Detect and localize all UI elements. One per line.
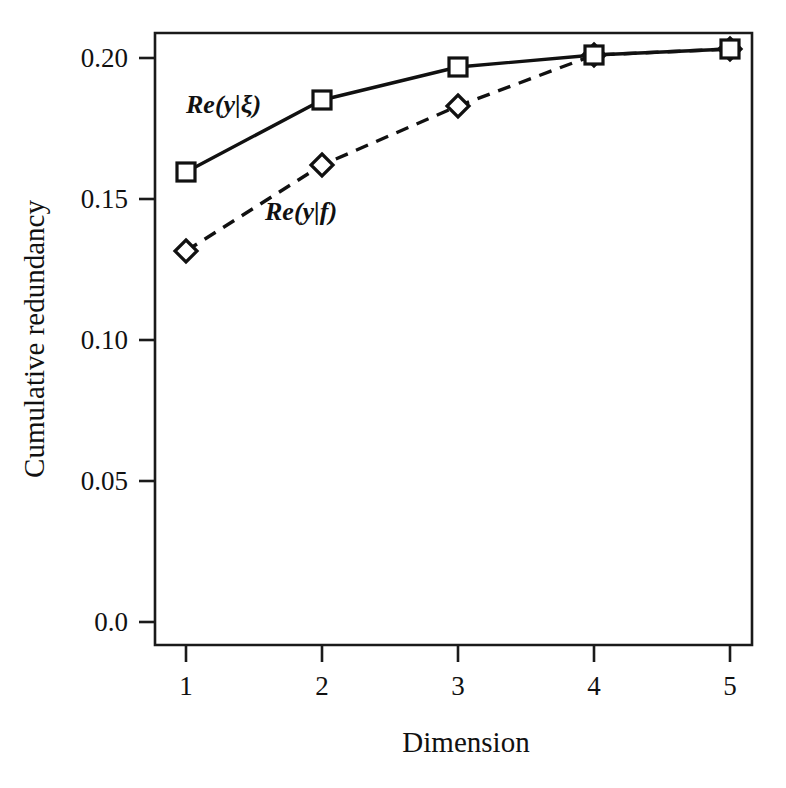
annotation-f-pre: Re( [264, 197, 305, 226]
annotation-f-post: ) [327, 197, 338, 226]
annotation-f-var: y [300, 197, 315, 226]
data-point-marker [449, 58, 467, 76]
y-tick-label-2: 0.10 [81, 325, 128, 355]
y-tick-label-4: 0.20 [81, 43, 128, 73]
y-tick-label-1: 0.05 [81, 466, 128, 496]
series-annotation-re-y-given-f: Re(y|f) [264, 197, 337, 226]
x-tick-label-2: 3 [451, 671, 465, 701]
data-point-marker [313, 91, 331, 109]
annotation-xi-pre: Re( [185, 90, 226, 119]
chart-background [0, 0, 786, 788]
x-axis-title: Dimension [402, 726, 530, 758]
annotation-xi-var: y [221, 90, 236, 119]
x-tick-label-4: 5 [723, 671, 737, 701]
y-axis-title: Cumulative redundancy [18, 200, 50, 478]
data-point-marker [585, 46, 603, 64]
x-tick-label-3: 4 [587, 671, 601, 701]
annotation-xi-cond: ξ [241, 90, 253, 119]
data-point-marker [177, 163, 195, 181]
annotation-label-xi: Re(y|ξ) [185, 90, 261, 119]
x-tick-label-1: 2 [315, 671, 329, 701]
annotation-label-f: Re(y|f) [264, 197, 337, 226]
annotation-xi-post: ) [251, 90, 262, 119]
data-point-marker [721, 40, 739, 58]
y-tick-label-3: 0.15 [81, 184, 128, 214]
y-tick-label-0: 0.0 [94, 607, 128, 637]
chart-figure: 0.0 0.05 0.10 0.15 0.20 1 2 3 4 5 Dimens… [0, 0, 786, 788]
redundancy-line-chart: 0.0 0.05 0.10 0.15 0.20 1 2 3 4 5 Dimens… [0, 0, 786, 788]
series-annotation-re-y-given-xi: Re(y|ξ) [185, 90, 261, 119]
x-tick-label-0: 1 [179, 671, 193, 701]
